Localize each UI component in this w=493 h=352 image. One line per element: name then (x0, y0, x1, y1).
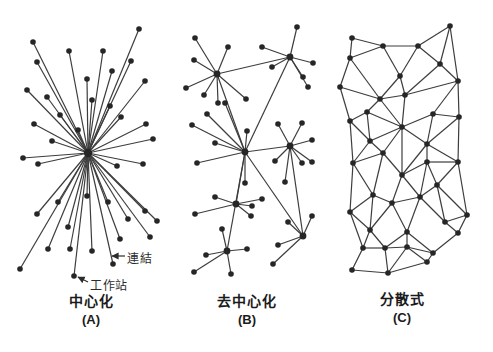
node (34, 211, 40, 217)
node (337, 84, 343, 90)
edge (350, 112, 367, 121)
edge (350, 38, 352, 58)
hub-node (214, 71, 221, 78)
edge (217, 74, 218, 103)
edge (290, 146, 303, 236)
edge (352, 270, 388, 273)
edge (350, 195, 373, 212)
node (417, 194, 423, 200)
node (57, 112, 63, 118)
node (442, 219, 448, 225)
node (294, 24, 300, 30)
node (259, 196, 265, 202)
node (385, 270, 391, 276)
edge (195, 204, 236, 214)
node (136, 26, 142, 32)
network-distributed (337, 23, 470, 276)
edge (450, 26, 458, 81)
node (194, 160, 200, 166)
node (24, 87, 30, 93)
node (110, 261, 116, 267)
node (243, 96, 249, 102)
edge (350, 121, 370, 141)
edge (88, 153, 143, 164)
node (55, 199, 61, 205)
node (204, 111, 210, 117)
node (84, 76, 90, 82)
node (128, 58, 134, 64)
node (17, 266, 23, 272)
node (109, 68, 115, 74)
node (191, 57, 197, 63)
node (347, 55, 353, 61)
node (142, 208, 148, 214)
edge (437, 162, 458, 185)
edge (363, 230, 370, 248)
node (84, 193, 90, 199)
node (299, 120, 305, 126)
node (192, 35, 198, 41)
node (192, 211, 198, 217)
node (31, 121, 37, 127)
edge (290, 27, 297, 57)
hub-node (84, 149, 92, 157)
edge (433, 114, 459, 117)
edge (197, 152, 245, 163)
node (225, 44, 231, 50)
node (212, 140, 218, 146)
caption-decentralized: 去中心化 (B) (217, 294, 277, 328)
caption-distributed-label: 分散式 (380, 292, 425, 307)
node (65, 224, 71, 230)
node (424, 159, 430, 165)
node (272, 158, 278, 164)
node (389, 200, 395, 206)
edge (370, 230, 385, 248)
node (349, 267, 355, 273)
caption-centralized: 中心化 (A) (69, 294, 114, 328)
edge (402, 144, 427, 175)
edge (33, 42, 88, 153)
caption-centralized-label: 中心化 (69, 294, 114, 309)
node (100, 48, 106, 54)
node (367, 227, 373, 233)
node (364, 109, 370, 115)
edge (350, 58, 380, 99)
node (299, 160, 305, 166)
node (228, 271, 234, 277)
edge (400, 76, 405, 95)
edge (340, 87, 350, 121)
edge (290, 123, 302, 146)
node (150, 136, 156, 142)
node (67, 246, 73, 252)
node (424, 259, 430, 265)
node (44, 94, 50, 100)
node (71, 273, 77, 279)
edge (392, 197, 420, 203)
node (404, 229, 410, 235)
node (20, 155, 26, 161)
node (434, 182, 440, 188)
edge (87, 79, 88, 153)
node (89, 248, 95, 254)
node (430, 111, 436, 117)
node (125, 216, 131, 222)
node (35, 161, 41, 167)
node (309, 137, 315, 143)
edge (217, 47, 228, 74)
node (399, 124, 405, 130)
node (464, 212, 470, 218)
edge (195, 38, 217, 74)
node (75, 127, 81, 133)
annotation-workstation: 工作站 (90, 276, 128, 293)
edge (227, 251, 231, 274)
caption-distributed-letter: (C) (380, 311, 425, 325)
edge (407, 197, 420, 232)
node (107, 103, 113, 109)
edge (194, 60, 217, 74)
edge (236, 199, 262, 204)
node (424, 141, 430, 147)
edge (245, 152, 303, 236)
edge (217, 57, 290, 74)
node (143, 121, 149, 127)
node (377, 96, 383, 102)
